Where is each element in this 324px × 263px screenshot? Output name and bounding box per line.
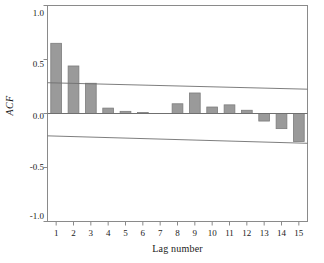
acf-bar (207, 107, 218, 113)
acf-bar (276, 114, 287, 129)
acf-bar (51, 43, 62, 113)
acf-bar (85, 83, 96, 113)
plot-area (0, 0, 324, 263)
y-tick-marks (44, 6, 48, 222)
bar-series (51, 43, 304, 141)
acf-bar (259, 114, 270, 122)
acf-bar (293, 114, 304, 142)
acf-chart: ACF 1.0 0.5 0.0 -0.5 -1.0 12345678910111… (0, 0, 324, 263)
acf-bar (224, 105, 235, 114)
x-tick-marks (56, 222, 299, 226)
acf-bar (172, 104, 183, 114)
acf-bar (103, 108, 114, 113)
acf-bar (68, 66, 79, 114)
lower-confidence-band (48, 136, 308, 143)
acf-bar (189, 93, 200, 114)
